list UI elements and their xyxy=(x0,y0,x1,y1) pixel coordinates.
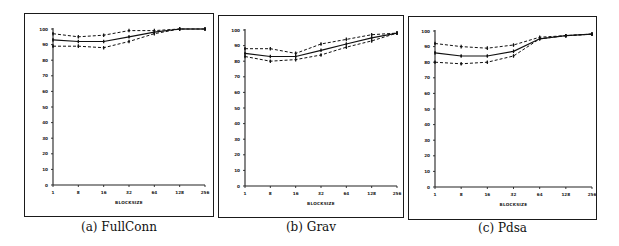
y-tick-label: 70 xyxy=(234,74,240,79)
y-tick-label: 40 xyxy=(424,122,430,127)
y-tick-label: 20 xyxy=(42,151,48,156)
y-tick-label: 80 xyxy=(424,60,430,65)
x-tick-label: 16 xyxy=(484,192,490,197)
chart-panel-fullconn: 010203040506070809010018163264128256BLOC… xyxy=(24,13,214,217)
x-tick-label: 128 xyxy=(561,192,570,197)
chart-plot-pdsa: 010203040506070809010018163264128256BLOC… xyxy=(409,17,598,221)
y-tick-label: 100 xyxy=(421,29,430,34)
y-tick-label: 80 xyxy=(42,58,48,63)
y-tick-label: 70 xyxy=(42,73,48,78)
x-tick-label: 1 xyxy=(244,191,247,196)
y-tick-label: 30 xyxy=(424,138,430,143)
y-tick-label: 60 xyxy=(424,91,430,96)
y-tick-label: 100 xyxy=(39,27,48,32)
y-tick-label: 100 xyxy=(231,28,240,33)
y-tick-label: 40 xyxy=(234,121,240,126)
x-axis-title: BLOCKSIZE xyxy=(307,201,335,206)
y-tick-label: 90 xyxy=(42,42,48,47)
x-tick-label: 8 xyxy=(269,191,272,196)
x-tick-label: 16 xyxy=(101,190,107,195)
chart-plot-grav: 010203040506070809010018163264128256BLOC… xyxy=(219,16,405,219)
x-tick-label: 64 xyxy=(343,191,349,196)
y-tick-label: 80 xyxy=(234,59,240,64)
x-tick-label: 128 xyxy=(367,191,376,196)
y-tick-label: 10 xyxy=(424,169,430,174)
y-tick-label: 50 xyxy=(42,105,48,110)
x-axis-title: BLOCKSIZE xyxy=(115,200,143,205)
caption-fullconn: (a) FullConn xyxy=(24,220,214,234)
chart-panel-grav: 010203040506070809010018163264128256BLOC… xyxy=(218,15,404,218)
x-tick-label: 256 xyxy=(393,191,402,196)
y-tick-label: 60 xyxy=(42,89,48,94)
y-tick-label: 0 xyxy=(427,185,430,190)
x-tick-label: 256 xyxy=(201,190,210,195)
x-tick-label: 8 xyxy=(77,190,80,195)
x-tick-label: 64 xyxy=(537,192,543,197)
y-tick-label: 20 xyxy=(234,152,240,157)
y-tick-label: 70 xyxy=(424,75,430,80)
x-tick-label: 1 xyxy=(52,190,55,195)
x-tick-label: 128 xyxy=(175,190,184,195)
y-tick-label: 30 xyxy=(42,136,48,141)
y-tick-label: 90 xyxy=(234,43,240,48)
x-tick-label: 256 xyxy=(588,192,597,197)
x-axis-title: BLOCKSIZE xyxy=(500,202,528,207)
y-tick-label: 10 xyxy=(42,167,48,172)
y-tick-label: 40 xyxy=(42,120,48,125)
caption-pdsa: (c) Pdsa xyxy=(408,221,597,235)
x-tick-label: 16 xyxy=(293,191,299,196)
caption-grav: (b) Grav xyxy=(218,220,404,234)
chart-plot-fullconn: 010203040506070809010018163264128256BLOC… xyxy=(25,14,215,218)
y-tick-label: 50 xyxy=(424,107,430,112)
x-tick-label: 8 xyxy=(460,192,463,197)
x-tick-label: 32 xyxy=(318,191,324,196)
y-tick-label: 20 xyxy=(424,153,430,158)
y-tick-label: 0 xyxy=(45,183,48,188)
chart-panel-pdsa: 010203040506070809010018163264128256BLOC… xyxy=(408,16,597,220)
x-tick-label: 1 xyxy=(434,192,437,197)
y-tick-label: 10 xyxy=(234,168,240,173)
y-tick-label: 90 xyxy=(424,44,430,49)
y-tick-label: 50 xyxy=(234,106,240,111)
y-tick-label: 60 xyxy=(234,90,240,95)
x-tick-label: 32 xyxy=(511,192,517,197)
y-tick-label: 30 xyxy=(234,137,240,142)
x-tick-label: 64 xyxy=(151,190,157,195)
series-lower-line xyxy=(435,34,592,64)
y-tick-label: 0 xyxy=(237,184,240,189)
x-tick-label: 32 xyxy=(126,190,132,195)
